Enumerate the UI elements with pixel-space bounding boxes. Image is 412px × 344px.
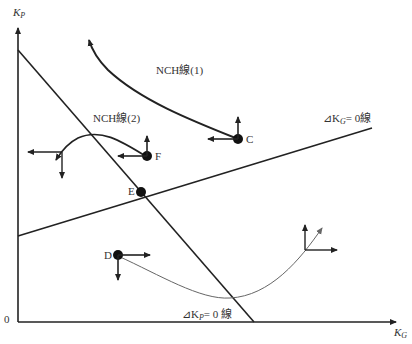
point-d: [113, 250, 150, 280]
diagram: KP KG 0 ⊿KG= 0線 ⊿KP= 0 線 NCH線(1) NCH線(2)…: [0, 0, 412, 344]
dkg-zero-label: ⊿KG= 0線: [323, 109, 371, 126]
origin-label: 0: [4, 313, 10, 325]
dkp-zero-label: ⊿KP= 0 線: [182, 305, 232, 322]
point-c-label: C: [246, 133, 253, 145]
d-trajectory: [118, 228, 322, 298]
point-e-label: E: [128, 185, 135, 197]
nch2-label: NCH線(2): [93, 109, 140, 125]
phase-diagram-svg: [0, 0, 412, 344]
dkg-zero-line: [18, 128, 372, 236]
nch2-end-arrows: [28, 152, 62, 178]
point-c: [208, 117, 243, 144]
point-d-label: D: [104, 249, 112, 261]
point-f: [118, 136, 152, 161]
nch1-label: NCH線(1): [156, 61, 203, 77]
point-f-label: F: [155, 150, 161, 162]
point-e: [136, 187, 146, 197]
x-axis-label: KG: [394, 326, 407, 340]
y-axis-label: KP: [13, 6, 25, 20]
